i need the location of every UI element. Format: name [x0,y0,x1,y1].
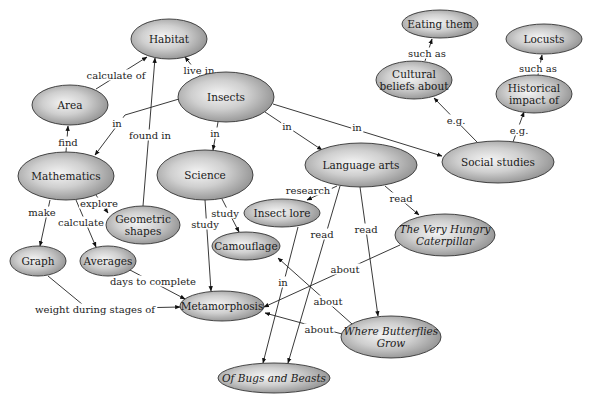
node-label: Caterpillar [416,235,475,247]
edge-label: read [388,193,414,204]
node-averages[interactable]: Averages [80,246,136,276]
node-insect-lore[interactable]: Insect lore [244,199,320,227]
node-label: Where Butterflies [344,325,439,337]
node-hungry-caterpillar[interactable]: The Very HungryCaterpillar [395,214,495,256]
edge-label-text: in [352,122,362,133]
edge-label-text: about [331,264,360,275]
node-label: Historical [508,82,561,94]
edge-label-text: find [58,137,78,148]
node-geometric-shapes[interactable]: Geometricshapes [106,206,180,244]
edge-label: in [351,122,363,133]
edge-label-text: read [354,224,378,235]
node-habitat[interactable]: Habitat [131,19,207,59]
node-label: Social studies [461,156,535,168]
node-social-studies[interactable]: Social studies [442,141,554,183]
node-label: beliefs about [380,80,450,92]
node-metamorphosis[interactable]: Metamorphosis [180,291,264,321]
edge-label: about [330,264,361,275]
edge-label: study [190,219,220,230]
edge-label-text: in [210,128,220,139]
edge-label: make [27,207,57,218]
edge-label-text: such as [519,63,557,74]
edge-label: find [57,137,79,148]
edge-label-text: in [112,118,122,129]
node-label: shapes [125,225,162,237]
edge-label-text: days to complete [110,276,196,287]
node-mathematics[interactable]: Mathematics [18,152,114,200]
edge-label-text: e.g. [447,115,466,126]
node-label: Mathematics [31,170,100,182]
node-label: Eating them [407,18,473,30]
edge-insects-language [265,112,322,150]
edge-label: weight during stages of [34,304,157,315]
edge-label: found in [128,130,172,141]
edge-labels-layer: calculate oflive infound ininfindininine… [27,48,558,335]
node-locusts[interactable]: Locusts [506,24,582,54]
node-science[interactable]: Science [157,150,253,200]
edge-label-text: read [310,229,334,240]
edge-label: e.g. [509,125,530,136]
node-language-arts[interactable]: Language arts [305,143,417,187]
edge-language-where-butterflies [360,187,378,316]
edge-label: explore [79,198,119,209]
edge-label-text: study [191,219,219,230]
edge-label: calculate of [86,70,148,81]
edge-label-text: about [314,296,343,307]
node-label: Language arts [323,159,400,171]
node-bugs-and-beasts[interactable]: Of Bugs and Beasts [218,363,330,393]
node-historical-impact[interactable]: Historicalimpact of [496,75,572,113]
edge-label: about [304,324,335,335]
node-label: Of Bugs and Beasts [222,372,327,384]
edge-label: read [353,224,379,235]
node-label: Insects [207,91,245,103]
edge-science-metamorphosis [205,200,211,291]
edge-label-text: study [211,208,239,219]
edge-label-text: found in [129,130,171,141]
node-insects[interactable]: Insects [178,72,274,122]
edge-label-text: research [286,185,331,196]
node-label: Grow [377,337,406,349]
node-graph[interactable]: Graph [10,246,66,276]
node-label: impact of [509,94,560,106]
edge-label-text: explore [80,198,118,209]
node-label: Habitat [149,33,190,45]
node-where-butterflies-grow[interactable]: Where ButterfliesGrow [341,316,441,358]
node-label: Metamorphosis [181,300,264,312]
node-label: The Very Hungry [400,223,492,235]
node-label: Area [56,99,82,111]
edge-label: in [209,128,221,139]
edge-label: research [285,185,332,196]
edge-label-text: about [305,324,334,335]
node-label: Science [184,169,226,181]
edge-label: in [277,277,289,288]
edge-label-text: calculate of [87,70,147,81]
node-label: Averages [83,255,133,267]
edge-label-text: make [28,207,56,218]
node-label: Insect lore [254,207,311,219]
node-label: Locusts [524,33,565,45]
node-eating-them[interactable]: Eating them [402,10,478,38]
concept-map: calculate oflive infound ininfindininine… [0,0,598,405]
edge-label: such as [407,48,447,59]
edge-label: days to complete [109,276,197,287]
node-label: Geometric [115,213,171,225]
edge-label: read [309,229,335,240]
edge-label: such as [518,63,558,74]
node-cultural-beliefs[interactable]: Culturalbeliefs about [376,61,452,99]
edge-label-text: e.g. [510,125,529,136]
edge-label: in [281,121,293,132]
edge-label: e.g. [446,115,467,126]
edge-label: in [111,118,123,129]
edge-label-text: weight during stages of [35,304,156,315]
edge-label-text: such as [408,48,446,59]
node-label: Cultural [392,68,436,80]
edge-label-text: read [389,193,413,204]
edge-label: about [313,296,344,307]
edge-label: calculate [57,217,105,228]
node-area[interactable]: Area [32,85,108,125]
node-camouflage[interactable]: Camouflage [212,232,280,260]
edge-label-text: in [282,121,292,132]
edge-label: study [210,208,240,219]
node-label: Camouflage [214,240,278,252]
node-label: Graph [21,255,54,267]
